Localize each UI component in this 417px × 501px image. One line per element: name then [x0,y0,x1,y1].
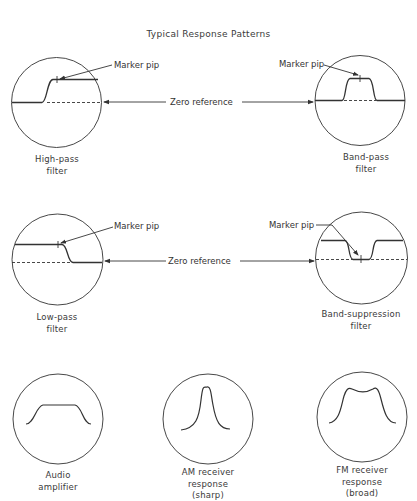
marker-pip-leader-1 [60,65,112,79]
label-am-receiver: AM receiverresponse(sharp) [166,467,250,501]
scope-band-suppression [316,212,408,304]
response-patterns-drawing [0,0,417,501]
label-band-suppression: Band-suppressionfilter [311,308,411,332]
label-fm-receiver: FM receiverresponse(broad) [320,465,404,500]
zero-reference-label-2: Zero reference [168,256,231,266]
marker-pip-label-4: Marker pip [269,220,314,230]
marker-pip-label-2: Marker pip [279,59,324,69]
label-high-pass: High-passfilter [16,153,98,177]
label-band-pass: Band-passfilter [325,151,407,175]
marker-pip-label-1: Marker pip [114,60,159,70]
scope-am-receiver [163,374,253,464]
label-audio-amplifier: Audioamplifier [17,469,99,493]
marker-pip-leader-3 [61,227,113,243]
label-low-pass: Low-passfilter [16,311,98,335]
scope-band-pass [315,56,405,146]
marker-pip-label-3: Marker pip [114,221,159,231]
scope-audio-amplifier [13,374,103,464]
scope-low-pass [12,214,103,305]
scope-fm-receiver [317,372,407,462]
marker-pip-leader-2 [324,65,358,75]
zero-reference-label-1: Zero reference [170,97,233,107]
